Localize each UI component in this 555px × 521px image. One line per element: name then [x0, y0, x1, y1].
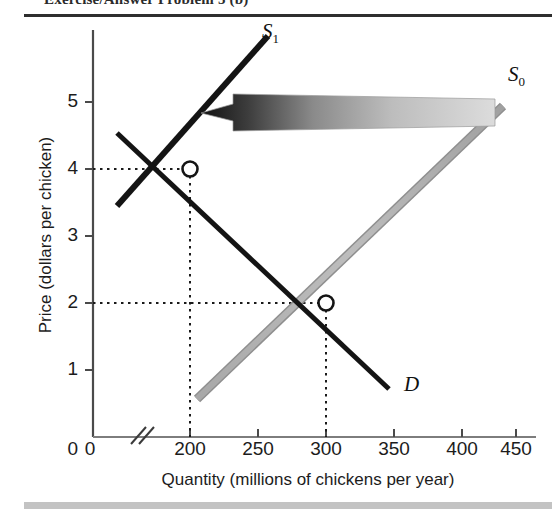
- curve-label-s0: S0: [508, 62, 525, 90]
- x-tick-350: 350: [366, 438, 422, 460]
- y-axis-title: Price (dollars per chicken): [36, 105, 56, 365]
- x-axis-title: Quantity (millions of chickens per year): [93, 470, 523, 490]
- x-tick-200: 200: [162, 438, 218, 460]
- curve-label-s0-text: S: [508, 62, 519, 86]
- y-axis-ticks: [85, 102, 93, 370]
- x-axis-ticks: [190, 429, 516, 437]
- curve-label-s1-sub: 1: [273, 31, 280, 46]
- x-tick-400: 400: [434, 438, 490, 460]
- curve-label-s1: S1: [262, 19, 279, 47]
- x-tick-300: 300: [298, 438, 354, 460]
- x-tick-0: 0: [62, 438, 118, 460]
- original-equilibrium-point: [319, 296, 334, 311]
- x-tick-250: 250: [230, 438, 286, 460]
- curve-label-s0-sub: 0: [519, 74, 526, 89]
- curve-label-s1-text: S: [262, 19, 273, 43]
- axis-lines: [93, 30, 536, 437]
- x-tick-450: 450: [488, 438, 544, 460]
- supply-shift-arrow: [201, 94, 495, 131]
- supply-demand-chart: 5 4 3 2 1 0 0 200 250 300 350 400 450 Pr…: [0, 0, 555, 521]
- footer-divider: [24, 502, 552, 509]
- figure-page: Exercise/Answer Problem 5 (b): [0, 0, 555, 521]
- axis-break-mark: [131, 427, 154, 444]
- new-equilibrium-point: [183, 162, 198, 177]
- curve-label-d: D: [404, 372, 419, 397]
